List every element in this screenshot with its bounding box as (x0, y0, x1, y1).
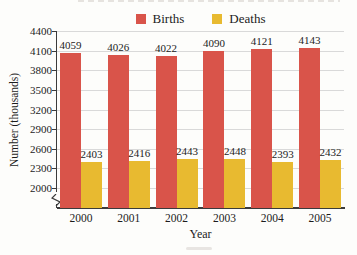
births-bar (203, 51, 224, 208)
deaths-bar (129, 161, 150, 208)
chart-figure: Births Deaths Number (thousands) 4400410… (0, 0, 357, 255)
births-value-label: 4143 (290, 34, 330, 46)
bottom-smudge (186, 247, 212, 250)
y-tick-label: 3200 (12, 104, 52, 116)
births-bar (299, 48, 320, 208)
births-bar (251, 49, 272, 208)
plot-area: 4400410038003500320029002600230020004059… (0, 0, 357, 255)
deaths-bar (224, 159, 245, 208)
deaths-value-label: 2416 (119, 147, 159, 159)
x-tick-label: 2000 (59, 212, 103, 225)
deaths-bar (272, 162, 293, 208)
y-tick-label: 2600 (12, 143, 52, 155)
x-tick-label: 2001 (107, 212, 151, 225)
y-tick-label: 4100 (12, 45, 52, 57)
deaths-value-label: 2403 (71, 148, 111, 160)
deaths-value-label: 2432 (311, 146, 351, 158)
y-tick-label: 2300 (12, 162, 52, 174)
y-tick-label: 3800 (12, 64, 52, 76)
births-value-label: 4059 (50, 39, 90, 51)
deaths-bar (177, 159, 198, 208)
births-value-label: 4026 (98, 41, 138, 53)
y-tick-label: 2000 (12, 182, 52, 194)
births-value-label: 4022 (146, 42, 186, 54)
gridline (57, 31, 344, 32)
births-bar (108, 55, 129, 208)
x-tick-label: 2005 (298, 212, 342, 225)
y-tick-label: 2900 (12, 123, 52, 135)
births-value-label: 4090 (194, 37, 234, 49)
births-bar (60, 53, 81, 208)
x-tick-label: 2003 (202, 212, 246, 225)
x-axis-title: Year (57, 227, 344, 241)
births-value-label: 4121 (242, 35, 282, 47)
y-tick-label: 4400 (12, 25, 52, 37)
y-axis-line (56, 31, 57, 192)
deaths-value-label: 2448 (215, 145, 255, 157)
births-bar (156, 56, 177, 208)
deaths-bar (81, 162, 102, 208)
x-tick-label: 2004 (250, 212, 294, 225)
y-tick-label: 3500 (12, 84, 52, 96)
deaths-value-label: 2393 (263, 148, 303, 160)
deaths-bar (320, 160, 341, 208)
deaths-value-label: 2443 (167, 145, 207, 157)
x-tick-label: 2002 (155, 212, 199, 225)
